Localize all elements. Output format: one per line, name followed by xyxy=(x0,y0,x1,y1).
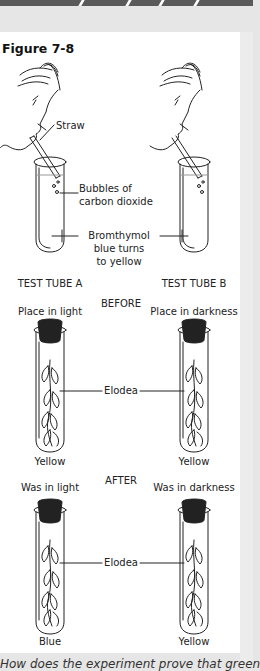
elodea-plant-icon xyxy=(186,540,203,626)
tube-b-after-color: Yellow xyxy=(179,636,210,647)
elodea-plant-icon xyxy=(186,360,203,446)
tube-a-after-color: Blue xyxy=(39,636,61,647)
elodea-label: Elodea xyxy=(104,385,138,396)
elodea-label: Elodea xyxy=(104,557,138,568)
after-heading: AFTER xyxy=(105,475,137,486)
question-text: How does the experiment prove that green xyxy=(0,657,260,671)
test-tube-a xyxy=(34,157,66,252)
tube-b-after-condition: Was in darkness xyxy=(153,482,234,493)
tube-b-before-condition: Place in darkness xyxy=(150,306,237,317)
elodea-plant-icon xyxy=(42,360,59,446)
elodea-plant-icon xyxy=(42,540,59,626)
bubbles-label-line2: carbon dioxide xyxy=(79,195,153,208)
test-tube-b-label: TEST TUBE B xyxy=(162,278,227,289)
tube-a-before-condition: Place in light xyxy=(18,306,82,317)
tube-a-before-color: Yellow xyxy=(35,456,66,467)
person-blowing-icon xyxy=(0,63,60,150)
bubbles-label: Bubbles of carbon dioxide xyxy=(79,182,153,208)
bromthymol-label-line2: blue turns xyxy=(88,242,149,255)
test-tube-a-label: TEST TUBE A xyxy=(18,278,83,289)
bromthymol-label-line3: to yellow xyxy=(88,255,149,268)
before-heading: BEFORE xyxy=(101,298,141,309)
bromthymol-label: Bromthymol blue turns to yellow xyxy=(88,229,149,268)
bromthymol-label-line1: Bromthymol xyxy=(88,229,149,242)
bubbles-label-line1: Bubbles of xyxy=(79,182,153,195)
straw-label: Straw xyxy=(56,120,85,131)
tube-b-before-color: Yellow xyxy=(179,456,210,467)
tube-a-after-condition: Was in light xyxy=(21,482,79,493)
